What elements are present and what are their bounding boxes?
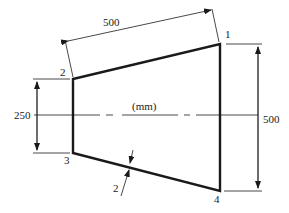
length-dimension — [65, 9, 219, 77]
units-label: (mm) — [132, 100, 157, 113]
right-height-dimension — [224, 44, 262, 191]
length-dimension-label: 500 — [103, 16, 120, 28]
node-label-4: 4 — [214, 193, 220, 205]
left-height-dimension — [33, 79, 70, 153]
thickness-indicator — [121, 150, 133, 196]
right-height-label: 500 — [263, 113, 280, 125]
node-label-1: 1 — [225, 28, 231, 40]
thickness-label: 2 — [113, 182, 119, 194]
node-label-3: 3 — [64, 154, 70, 166]
left-height-label: 250 — [14, 109, 31, 121]
plate-diagram: 500 250 500 2 (mm) 1 2 3 4 — [0, 0, 289, 213]
plate-outline — [73, 44, 220, 191]
node-label-2: 2 — [60, 66, 66, 78]
